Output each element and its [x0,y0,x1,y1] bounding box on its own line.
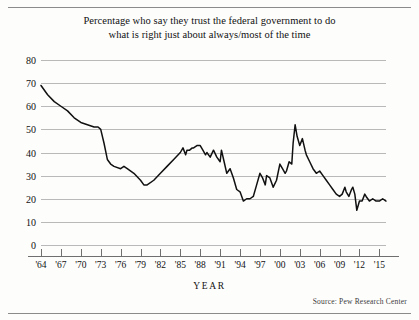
x-tick-76 [121,249,122,256]
x-tick-03 [300,249,301,256]
x-axis-label-12: '12 [354,260,365,270]
top-divider [8,7,411,8]
x-tick-06 [320,249,321,256]
trust-line-series [41,85,386,210]
y-axis-label-20: 20 [26,193,36,204]
x-axis-label-06: '06 [314,260,325,270]
gridline-0 [41,245,386,246]
x-axis-ticks [41,249,386,257]
x-tick-82 [160,249,161,256]
chart-title-line-1: Percentage who say they trust the federa… [0,14,419,28]
x-tick-64 [41,249,42,256]
x-tick-85 [180,249,181,256]
x-axis-label-70: '70 [75,260,86,270]
x-tick-73 [101,249,102,256]
x-axis-label-76: '76 [115,260,126,270]
y-axis-label-60: 60 [26,101,36,112]
x-axis-labels: '64'67'70'73'76'79'82'85'88'91'94'97'00'… [41,260,386,274]
chart-figure: Percentage who say they trust the federa… [0,0,419,320]
x-tick-97 [260,249,261,256]
x-tick-09 [340,249,341,256]
x-axis-label-88: '88 [195,260,206,270]
x-tick-91 [220,249,221,256]
x-tick-70 [81,249,82,256]
x-axis-label-85: '85 [175,260,186,270]
source-attribution: Source: Pew Research Center [313,297,407,306]
trust-line-chart [41,60,386,245]
y-axis-label-30: 30 [26,170,36,181]
bottom-divider [8,313,411,314]
x-tick-79 [141,249,142,256]
chart-title: Percentage who say they trust the federa… [0,14,419,42]
x-axis-label-00: '00 [274,260,285,270]
x-axis-label-67: '67 [55,260,66,270]
y-axis-label-10: 10 [26,216,36,227]
y-axis-label-80: 80 [26,55,36,66]
plot-area: 80706050403020100 [41,60,386,245]
y-axis-label-70: 70 [26,78,36,89]
chart-title-line-2: what is right just about always/most of … [0,28,419,42]
x-axis-label-94: '94 [234,260,245,270]
x-tick-00 [280,249,281,256]
x-tick-67 [61,249,62,256]
data-line-wrapper [41,60,386,245]
x-axis-label-79: '79 [135,260,146,270]
x-tick-94 [240,249,241,256]
x-axis-label-82: '82 [155,260,166,270]
x-axis-label-73: '73 [95,260,106,270]
x-tick-12 [359,249,360,256]
x-axis-label-09: '09 [334,260,345,270]
x-axis-label-97: '97 [254,260,265,270]
x-axis-label-03: '03 [294,260,305,270]
y-axis-label-40: 40 [26,147,36,158]
x-axis-label-91: '91 [215,260,226,270]
x-axis-label-64: '64 [35,260,46,270]
x-tick-88 [200,249,201,256]
x-tick-15 [379,249,380,256]
y-axis-label-0: 0 [31,240,36,251]
x-axis-title: YEAR [0,281,419,291]
x-axis-label-15: '15 [374,260,385,270]
y-axis-label-50: 50 [26,124,36,135]
